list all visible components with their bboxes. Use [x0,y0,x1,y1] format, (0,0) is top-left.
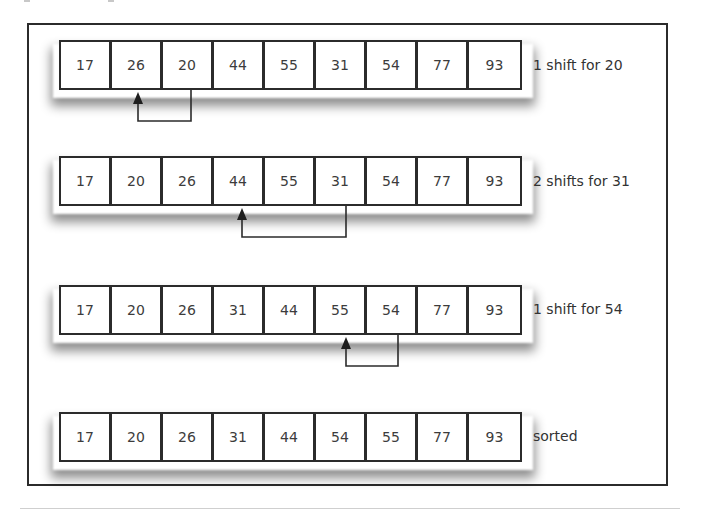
array-cell: 44 [265,414,316,460]
array-cell: 93 [469,158,520,204]
row-4-label: sorted [533,428,578,444]
row-3-label: 1 shift for 54 [533,301,623,317]
array-cell: 17 [61,158,112,204]
array-cell: 26 [163,414,214,460]
array-cell: 26 [112,42,163,88]
row-1-label: 1 shift for 20 [533,57,623,73]
array-cell: 55 [367,414,418,460]
top-edge-marks [20,0,160,3]
array-cell: 77 [418,42,469,88]
shift-arrow-icon [338,335,408,371]
array-cell: 93 [469,42,520,88]
array-cell: 17 [61,414,112,460]
row-2-label: 2 shifts for 31 [533,173,630,189]
array-cells: 17 20 26 44 55 31 54 77 93 [59,156,522,206]
array-cell: 54 [367,287,418,333]
array-cell: 20 [112,414,163,460]
array-cell: 31 [316,158,367,204]
shift-arrow-icon [130,90,200,126]
bottom-divider [20,508,680,509]
array-cell: 54 [367,158,418,204]
array-cells: 17 26 20 44 55 31 54 77 93 [59,40,522,90]
array-cell: 54 [367,42,418,88]
array-cell: 44 [265,287,316,333]
array-cell: 17 [61,287,112,333]
array-cells: 17 20 26 31 44 54 55 77 93 [59,412,522,462]
shift-arrow-icon [234,206,354,242]
array-cell: 17 [61,42,112,88]
array-cell: 20 [163,42,214,88]
array-cell: 31 [316,42,367,88]
array-cell: 44 [214,42,265,88]
array-cell: 20 [112,158,163,204]
array-cell: 31 [214,287,265,333]
array-cell: 55 [316,287,367,333]
array-cell: 26 [163,287,214,333]
array-cell: 93 [469,287,520,333]
array-cell: 31 [214,414,265,460]
array-cell: 20 [112,287,163,333]
array-cell: 77 [418,158,469,204]
array-cell: 77 [418,287,469,333]
array-cell: 54 [316,414,367,460]
array-cell: 77 [418,414,469,460]
array-cells: 17 20 26 31 44 55 54 77 93 [59,285,522,335]
array-cell: 44 [214,158,265,204]
array-cell: 55 [265,42,316,88]
array-cell: 93 [469,414,520,460]
array-cell: 55 [265,158,316,204]
array-cell: 26 [163,158,214,204]
